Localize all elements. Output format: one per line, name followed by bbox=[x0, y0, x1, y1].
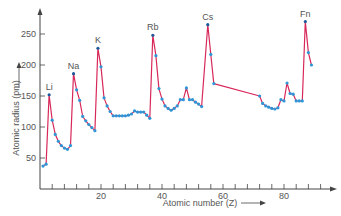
data-point bbox=[118, 114, 121, 117]
data-point bbox=[151, 34, 154, 37]
x-axis-arrow-icon bbox=[330, 187, 337, 192]
data-point bbox=[170, 109, 173, 112]
data-series bbox=[41, 20, 313, 168]
element-label: Rb bbox=[147, 22, 159, 32]
data-point bbox=[264, 104, 267, 107]
element-label: Na bbox=[68, 61, 80, 71]
data-point bbox=[157, 87, 160, 90]
data-point bbox=[60, 144, 63, 147]
element-label: Fn bbox=[300, 9, 311, 19]
data-point bbox=[285, 81, 288, 84]
data-point bbox=[160, 98, 163, 101]
x-axis-label: Atomic number (Z) bbox=[163, 198, 238, 208]
data-point bbox=[307, 51, 310, 54]
data-point bbox=[282, 99, 285, 102]
data-point bbox=[124, 114, 127, 117]
data-point bbox=[112, 114, 115, 117]
element-label: Li bbox=[46, 82, 53, 92]
data-point bbox=[84, 119, 87, 122]
element-label: Cs bbox=[202, 12, 213, 22]
data-point bbox=[54, 133, 57, 136]
y-tick-label: 150 bbox=[21, 91, 36, 101]
data-point bbox=[72, 72, 75, 75]
data-point bbox=[66, 148, 69, 151]
x-tick-label: 20 bbox=[96, 191, 106, 201]
data-point bbox=[279, 98, 282, 101]
data-point bbox=[182, 98, 185, 101]
data-point bbox=[78, 99, 81, 102]
data-point bbox=[96, 47, 99, 50]
data-point bbox=[130, 112, 133, 115]
y-tick-label: 200 bbox=[21, 60, 36, 70]
data-point bbox=[267, 106, 270, 109]
data-point bbox=[63, 146, 66, 149]
data-point bbox=[115, 114, 118, 117]
data-point bbox=[212, 82, 215, 85]
data-point bbox=[167, 107, 170, 110]
data-point bbox=[136, 111, 139, 114]
data-point bbox=[75, 88, 78, 91]
data-point bbox=[276, 106, 279, 109]
data-point bbox=[206, 23, 209, 26]
data-point bbox=[109, 110, 112, 113]
data-point bbox=[154, 54, 157, 57]
data-point bbox=[81, 115, 84, 118]
data-point bbox=[106, 104, 109, 107]
x-tick-label: 80 bbox=[279, 191, 289, 201]
x-label-arrow-icon bbox=[260, 201, 266, 206]
data-point bbox=[93, 129, 96, 132]
data-point bbox=[69, 144, 72, 147]
data-point bbox=[90, 126, 93, 129]
data-point bbox=[139, 111, 142, 114]
data-point bbox=[163, 104, 166, 107]
data-point bbox=[295, 99, 298, 102]
data-point bbox=[57, 140, 60, 143]
data-point bbox=[304, 20, 307, 23]
data-point bbox=[261, 102, 264, 105]
data-point bbox=[179, 98, 182, 101]
data-point bbox=[41, 164, 44, 167]
y-axis-arrow-icon bbox=[38, 8, 43, 15]
data-point bbox=[142, 111, 145, 114]
data-point bbox=[133, 109, 136, 112]
data-point bbox=[173, 107, 176, 110]
y-tick-label: 100 bbox=[21, 122, 36, 132]
series-line bbox=[43, 22, 311, 167]
data-point bbox=[148, 117, 151, 120]
data-point bbox=[51, 119, 54, 122]
data-point bbox=[298, 99, 301, 102]
data-point bbox=[289, 92, 292, 95]
y-tick-label: 250 bbox=[21, 29, 36, 39]
data-point bbox=[45, 163, 48, 166]
atomic-radius-chart: 2040608050100150200250 LiNaKRbCsFn Atomi… bbox=[0, 0, 341, 216]
data-point bbox=[185, 86, 188, 89]
data-point bbox=[301, 99, 304, 102]
y-tick-label: 50 bbox=[26, 153, 36, 163]
data-point bbox=[102, 96, 105, 99]
data-point bbox=[191, 98, 194, 101]
data-point bbox=[270, 107, 273, 110]
element-labels: LiNaKRbCsFn bbox=[46, 9, 311, 92]
y-axis-label: Atomic radius (pm) bbox=[11, 80, 21, 156]
data-point bbox=[292, 93, 295, 96]
data-point bbox=[145, 114, 148, 117]
data-point bbox=[48, 93, 51, 96]
data-point bbox=[197, 102, 200, 105]
data-point bbox=[273, 107, 276, 110]
data-point bbox=[87, 123, 90, 126]
data-point bbox=[121, 114, 124, 117]
data-point bbox=[209, 53, 212, 56]
data-point bbox=[99, 65, 102, 68]
data-point bbox=[194, 101, 197, 104]
data-point bbox=[176, 104, 179, 107]
data-point bbox=[200, 105, 203, 108]
element-label: K bbox=[95, 35, 101, 45]
data-point bbox=[310, 63, 313, 66]
data-point bbox=[127, 114, 130, 117]
data-point bbox=[188, 98, 191, 101]
data-point bbox=[258, 94, 261, 97]
